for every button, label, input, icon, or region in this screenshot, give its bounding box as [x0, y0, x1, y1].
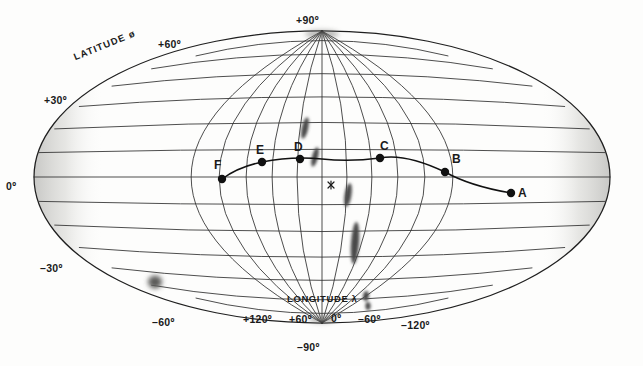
data-point-label-c: C [380, 139, 389, 153]
lat-tick-minus-90: –90º [297, 341, 320, 353]
data-point-label-e: E [256, 143, 264, 157]
figure-canvas: A B C D E F +90º +60º +30º 0º –30º –60º … [0, 0, 643, 366]
data-point-label-d: D [294, 140, 303, 154]
data-point-b [441, 168, 449, 176]
data-point-a [507, 189, 515, 197]
data-point-label-f: F [214, 158, 222, 172]
lat-tick-minus-30: –30º [40, 262, 63, 274]
lat-tick-zero: 0º [6, 180, 16, 192]
sky-map-svg [0, 0, 643, 366]
lon-tick-zero: 0º [331, 312, 341, 324]
lat-tick-minus-60: –60º [152, 316, 175, 328]
data-points [218, 154, 515, 197]
data-point-c [376, 154, 384, 162]
data-point-d [296, 155, 304, 163]
longitude-axis-label: LONGITUDE λ [287, 293, 357, 304]
data-point-e [258, 158, 266, 166]
data-point-label-a: A [518, 186, 527, 200]
lon-tick-minus-120: –120º [401, 319, 430, 331]
data-point-label-b: B [452, 152, 461, 166]
lat-tick-plus-60: +60º [158, 38, 181, 50]
lat-tick-plus-30: +30º [44, 94, 67, 106]
lon-tick-plus-120: +120º [243, 313, 272, 325]
center-asterisk-marker [328, 181, 334, 189]
lon-tick-plus-60: +60º [289, 313, 312, 325]
lon-tick-minus-60: –60º [358, 313, 381, 325]
lat-tick-plus-90: +90º [296, 14, 319, 26]
data-point-f [218, 175, 226, 183]
